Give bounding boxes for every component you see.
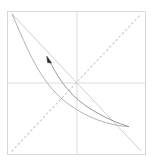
figure-container: Geometric diagram: square plot frame wit… xyxy=(0,0,153,166)
plot-canvas xyxy=(0,0,153,166)
